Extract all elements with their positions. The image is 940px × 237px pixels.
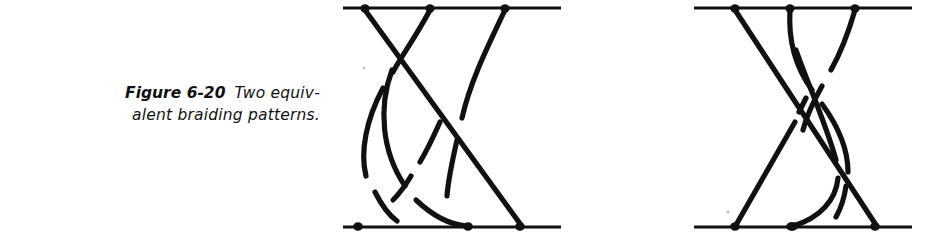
left-braid-strand-c-seg2 <box>447 140 457 196</box>
left-braid-paper-speck <box>362 66 365 69</box>
figure-container: Figure 6-20Two equiv- alent braiding pat… <box>0 0 940 237</box>
right-braid-paper-speck <box>726 210 730 214</box>
left-braid-top-node-3 <box>500 4 509 12</box>
left-braid-bottom-node-1 <box>353 222 363 230</box>
right-braid-strand-d-seg2 <box>793 178 838 226</box>
left-braid-top-node-2 <box>425 4 434 12</box>
right-braid-strand-c-seg1 <box>831 10 855 70</box>
left-braid-strand-b-seg2 <box>364 88 383 176</box>
right-braid-diagram <box>694 4 912 231</box>
left-braid-strand-c-seg1 <box>462 10 505 118</box>
right-braid-bottom-node-3 <box>870 222 880 230</box>
right-braid-strand-e <box>736 122 795 225</box>
left-braid-bottom-node-3 <box>515 222 525 230</box>
right-braid-top-node-2 <box>785 4 794 12</box>
right-braid-crossing-tick <box>799 98 806 112</box>
left-braid-strand-d-seg1 <box>384 70 405 186</box>
braid-diagrams <box>0 0 940 237</box>
left-braid-crossing-tail-upper <box>420 122 440 162</box>
left-braid-bottom-node-2 <box>463 222 473 230</box>
left-braid-strand-b-seg1 <box>393 10 430 72</box>
right-braid-top-node-3 <box>850 4 859 12</box>
right-braid-top-node-1 <box>730 4 739 12</box>
left-braid-strand-a <box>365 10 521 225</box>
right-braid-bottom-node-2 <box>786 222 798 231</box>
left-braid-top-node-1 <box>360 4 369 12</box>
left-braid-strand-d-seg2 <box>416 200 467 226</box>
left-braid-diagram <box>343 4 561 230</box>
right-braid-bottom-node-1 <box>730 222 740 230</box>
